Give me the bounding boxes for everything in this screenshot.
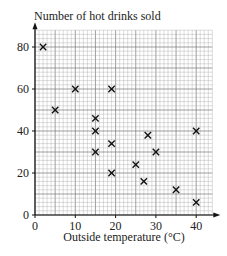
grid <box>35 30 212 215</box>
y-tick-label: 0 <box>23 208 29 222</box>
y-tick-label: 40 <box>17 124 29 138</box>
y-tick-label: 20 <box>17 166 29 180</box>
x-axis-title: Outside temperature (°C) <box>63 230 184 244</box>
scatter-chart: 010203040020406080 Number of hot drinks … <box>0 0 227 256</box>
y-tick-label: 80 <box>17 40 29 54</box>
x-tick-label: 40 <box>190 219 202 233</box>
x-tick-label: 0 <box>32 219 38 233</box>
y-tick-label: 60 <box>17 82 29 96</box>
tick-labels: 010203040020406080 <box>17 40 202 233</box>
y-axis-title: Number of hot drinks sold <box>34 9 161 23</box>
